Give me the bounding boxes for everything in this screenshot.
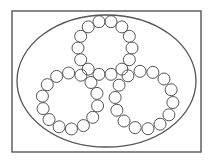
bead-circle — [77, 120, 89, 132]
bead-circle — [167, 97, 179, 109]
bead-circle — [126, 42, 138, 54]
bead-circle — [118, 115, 130, 127]
top-ring — [72, 16, 138, 81]
bead-circle — [158, 73, 170, 85]
bead-circle — [53, 121, 65, 133]
bead-circle — [87, 111, 99, 123]
bead-circle — [116, 63, 128, 75]
bead-circle — [65, 123, 77, 135]
bead-circle — [111, 104, 123, 116]
bead-circle — [165, 84, 177, 96]
bead-circle — [122, 70, 134, 82]
bead-circle — [147, 66, 159, 78]
bead-circle — [37, 103, 49, 115]
bead-circle — [93, 68, 105, 80]
bead-circle — [75, 54, 87, 66]
bead-circle — [105, 68, 117, 80]
outer-frame-rectangle — [12, 11, 201, 152]
bead-circle — [75, 69, 87, 81]
bead-rings-group — [36, 16, 178, 135]
bead-circle — [134, 65, 146, 77]
bead-circle — [72, 42, 84, 54]
bead-circle — [154, 118, 166, 130]
bead-circle — [43, 114, 55, 126]
bead-circle — [109, 91, 121, 103]
bead-circle — [123, 30, 135, 42]
bead-circle — [36, 90, 48, 102]
bead-circle — [85, 76, 97, 88]
three-bead-rings-diagram — [0, 0, 212, 164]
bead-circle — [91, 87, 103, 99]
bead-circle — [63, 67, 75, 79]
bead-circle — [113, 79, 125, 91]
bead-circle — [105, 16, 117, 28]
bead-circle — [142, 123, 154, 135]
left-ring — [36, 67, 103, 135]
diagram-canvas — [0, 0, 212, 164]
bead-circle — [163, 109, 175, 121]
bead-circle — [82, 21, 94, 33]
bead-circle — [93, 16, 105, 28]
bead-circle — [41, 79, 53, 91]
right-ring — [109, 65, 179, 134]
bead-circle — [92, 100, 104, 112]
bead-circle — [51, 70, 63, 82]
bead-circle — [129, 122, 141, 134]
